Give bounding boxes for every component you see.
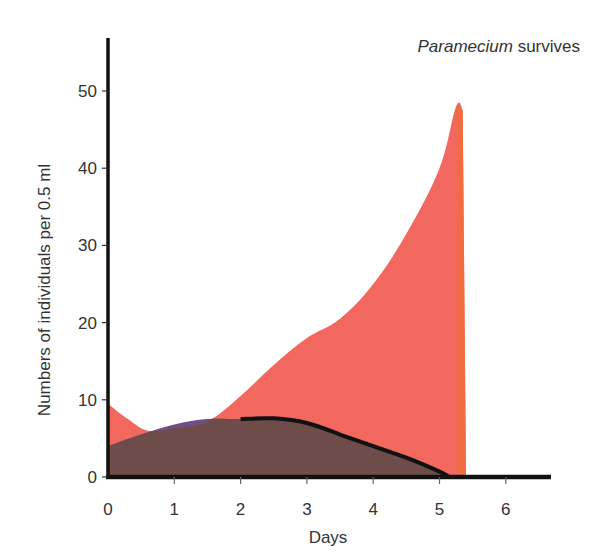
x-tick-label: 5 [435, 500, 444, 519]
y-tick-label: 20 [78, 314, 97, 333]
x-tick-label: 6 [501, 500, 510, 519]
annotation-paramecium-survives: Paramecium survives [418, 37, 581, 56]
chart: 010203040500123456 Paramecium survives D… [0, 0, 601, 560]
y-tick-label: 30 [78, 236, 97, 255]
x-axis-title: Days [309, 528, 348, 547]
y-tick-label: 0 [88, 468, 97, 487]
x-tick-label: 2 [236, 500, 245, 519]
y-tick-label: 50 [78, 82, 97, 101]
paramecium-edge-strip [456, 106, 466, 477]
y-axis-title: Numbers of individuals per 0.5 ml [35, 164, 54, 416]
y-tick-label: 40 [78, 159, 97, 178]
x-tick-label: 1 [170, 500, 179, 519]
y-tick-label: 10 [78, 391, 97, 410]
plot-areas [108, 103, 466, 477]
x-tick-label: 4 [368, 500, 377, 519]
x-tick-label: 0 [103, 500, 112, 519]
x-tick-label: 3 [302, 500, 311, 519]
